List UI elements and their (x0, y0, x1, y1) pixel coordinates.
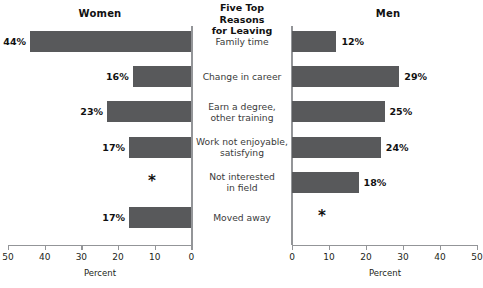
x-tick-men (329, 245, 330, 250)
bar-women (129, 207, 191, 228)
category-label-line: satisfying (194, 147, 290, 158)
bar-men (292, 172, 359, 193)
bar-value-label-women: 16% (87, 66, 129, 87)
category-label: Not interestedin field (194, 171, 290, 193)
category-label-line: Earn a degree, (194, 101, 290, 112)
panel-title-women: Women (60, 8, 140, 19)
category-label: Earn a degree,other training (194, 101, 290, 123)
bar-value-label-men: 12% (341, 31, 383, 52)
bar-men (292, 137, 381, 158)
x-tick-label-men: 40 (427, 252, 453, 262)
x-tick-women (81, 245, 82, 250)
category-label-line: other training (194, 112, 290, 123)
x-tick-men (440, 245, 441, 250)
x-tick-label-women: 0 (178, 252, 204, 262)
category-label-line: Moved away (194, 212, 290, 223)
category-label: Change in career (194, 71, 290, 82)
x-tick-women (45, 245, 46, 250)
x-tick-men (366, 245, 367, 250)
x-axis-caption-men: Percent (325, 268, 445, 278)
x-tick-label-women: 40 (32, 252, 58, 262)
bar-women (30, 31, 191, 52)
x-tick-label-men: 0 (279, 252, 305, 262)
x-tick-men (477, 245, 478, 250)
category-label: Moved away (194, 212, 290, 223)
category-label-line: Family time (194, 36, 290, 47)
category-label: Work not enjoyable,satisfying (194, 136, 290, 158)
suppressed-value-asterisk-women: * (148, 171, 156, 192)
chart-title-line-2: for Leaving (196, 25, 288, 37)
bar-value-label-men: 24% (386, 137, 428, 158)
chart-title-line-1: Five Top Reasons (196, 2, 288, 25)
x-tick-label-women: 10 (142, 252, 168, 262)
bar-value-label-men: 18% (364, 172, 406, 193)
bar-value-label-women: 17% (83, 137, 125, 158)
x-tick-men (403, 245, 404, 250)
x-tick-women (155, 245, 156, 250)
x-axis-caption-women: Percent (40, 268, 160, 278)
x-axis-women (8, 245, 192, 246)
bar-women (129, 137, 191, 158)
x-tick-women (8, 245, 9, 250)
chart-title: Five Top Reasons for Leaving (196, 2, 288, 37)
bar-value-label-men: 29% (404, 66, 446, 87)
bar-men (292, 66, 399, 87)
x-tick-label-men: 20 (353, 252, 379, 262)
category-label-line: Change in career (194, 71, 290, 82)
suppressed-value-asterisk-men: * (318, 206, 326, 227)
bar-women (107, 101, 191, 122)
x-tick-label-men: 10 (316, 252, 342, 262)
x-axis-men (292, 245, 477, 246)
x-tick-label-women: 20 (105, 252, 131, 262)
bar-value-label-women: 44% (0, 31, 26, 52)
x-tick-label-women: 50 (0, 252, 21, 262)
bar-men (292, 31, 336, 52)
category-label: Family time (194, 36, 290, 47)
x-tick-women (118, 245, 119, 250)
x-tick-label-men: 50 (464, 252, 483, 262)
x-tick-label-men: 30 (390, 252, 416, 262)
category-label-line: Work not enjoyable, (194, 136, 290, 147)
panel-title-men: Men (358, 8, 418, 19)
bar-value-label-men: 25% (390, 101, 432, 122)
paired-bar-chart: Women Men Five Top Reasons for Leaving P… (0, 0, 483, 288)
bar-women (133, 66, 192, 87)
bar-value-label-women: 17% (83, 207, 125, 228)
bar-men (292, 101, 385, 122)
category-label-line: Not interested (194, 171, 290, 182)
x-tick-women (191, 245, 192, 250)
bar-value-label-women: 23% (61, 101, 103, 122)
category-label-line: in field (194, 182, 290, 193)
x-tick-label-women: 30 (68, 252, 94, 262)
x-tick-men (292, 245, 293, 250)
